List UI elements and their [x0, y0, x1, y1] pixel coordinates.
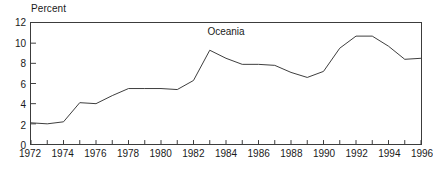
x-tick-label: 1976 [84, 148, 106, 159]
y-tick-label: 10 [0, 37, 26, 48]
x-tick-label: 1982 [182, 148, 204, 159]
y-tick-label: 4 [0, 99, 26, 110]
x-tick-label: 1974 [52, 148, 74, 159]
x-tick-label: 1980 [150, 148, 172, 159]
x-tick-label: 1978 [117, 148, 139, 159]
series-canvas [31, 23, 421, 144]
x-tick-label: 1996 [411, 148, 433, 159]
x-tick-label: 1972 [19, 148, 41, 159]
y-tick-label: 8 [0, 58, 26, 69]
x-tick-label: 1988 [280, 148, 302, 159]
x-tick-label: 1992 [346, 148, 368, 159]
chart-container: Percent 024681012 Oceania 19721974197619… [0, 0, 433, 178]
plot-area: Oceania [30, 22, 422, 145]
y-tick-label: 12 [0, 17, 26, 28]
x-tick-label: 1986 [248, 148, 270, 159]
x-tick-label: 1990 [313, 148, 335, 159]
x-tick-label: 1984 [215, 148, 237, 159]
x-tick-label: 1994 [378, 148, 400, 159]
y-axis-tick-marks [31, 43, 36, 124]
y-axis-label: Percent [31, 3, 66, 14]
y-tick-label: 2 [0, 119, 26, 130]
series-line-oceania [31, 36, 421, 124]
x-axis-minor-ticks [31, 140, 421, 144]
y-tick-label: 6 [0, 78, 26, 89]
